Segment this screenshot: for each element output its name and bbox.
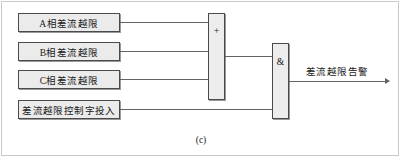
- input-box-c-phase: C相差流越限: [18, 70, 120, 89]
- arrow-right-icon: [385, 78, 390, 84]
- wire-control-word-to-and: [120, 109, 272, 110]
- wire-a-to-or: [120, 22, 208, 23]
- wire-and-to-output: [289, 81, 385, 82]
- or-gate: +: [208, 13, 225, 100]
- input-box-label: A相差流越限: [39, 16, 98, 30]
- and-gate: &: [272, 43, 289, 119]
- wire-c-to-or: [120, 79, 208, 80]
- input-box-label: B相差流越限: [40, 45, 99, 59]
- input-box-label: 差流越限控制字投入: [22, 103, 116, 117]
- wire-b-to-or: [120, 51, 208, 52]
- wire-or-to-and: [225, 56, 272, 57]
- input-box-control-word: 差流越限控制字投入: [18, 100, 120, 119]
- input-box-b-phase: B相差流越限: [18, 42, 120, 61]
- and-gate-symbol: &: [273, 56, 288, 67]
- figure-caption: (c): [0, 135, 402, 145]
- input-box-label: C相差流越限: [40, 73, 99, 87]
- output-label: 差流越限告警: [306, 64, 368, 78]
- input-box-a-phase: A相差流越限: [18, 13, 120, 32]
- logic-diagram-figure: A相差流越限 B相差流越限 C相差流越限 差流越限控制字投入 + & 差流越限告…: [0, 0, 402, 159]
- or-gate-symbol: +: [209, 25, 224, 36]
